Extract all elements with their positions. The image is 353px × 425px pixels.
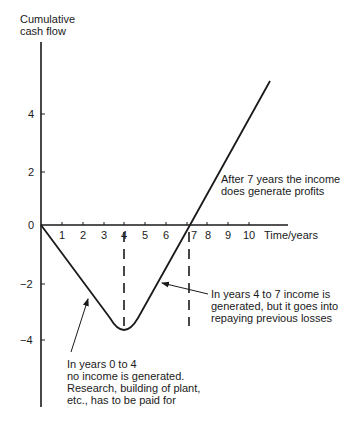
x-axis-title: Time/years [264, 229, 318, 241]
y-tick-neg4: −4 [20, 334, 33, 346]
arrow-repay [162, 283, 208, 294]
x-tick-8: 8 [205, 229, 211, 241]
y-tick-0: 0 [28, 219, 34, 231]
x-tick-5: 5 [142, 229, 148, 241]
x-tick-1: 1 [59, 229, 65, 241]
annotation-costs: In years 0 to 4 no income is generated. … [67, 358, 200, 406]
x-tick-4: 4 [121, 229, 127, 241]
x-tick-6: 6 [163, 229, 169, 241]
annotation-repay: In years 4 to 7 income is generated, but… [211, 288, 338, 324]
y-axis-title: Cumulative cash flow [20, 13, 75, 37]
x-tick-9: 9 [225, 229, 231, 241]
x-tick-3: 3 [101, 229, 107, 241]
y-tick-2: 2 [28, 166, 34, 178]
y-tick-4: 4 [28, 108, 34, 120]
x-tick-7: 7 [191, 229, 197, 241]
x-tick-10: 10 [243, 229, 255, 241]
annotation-profit: After 7 years the income does generate p… [221, 173, 340, 197]
arrow-costs [71, 299, 88, 352]
y-tick-neg2: −2 [20, 278, 33, 290]
x-tick-2: 2 [80, 229, 86, 241]
